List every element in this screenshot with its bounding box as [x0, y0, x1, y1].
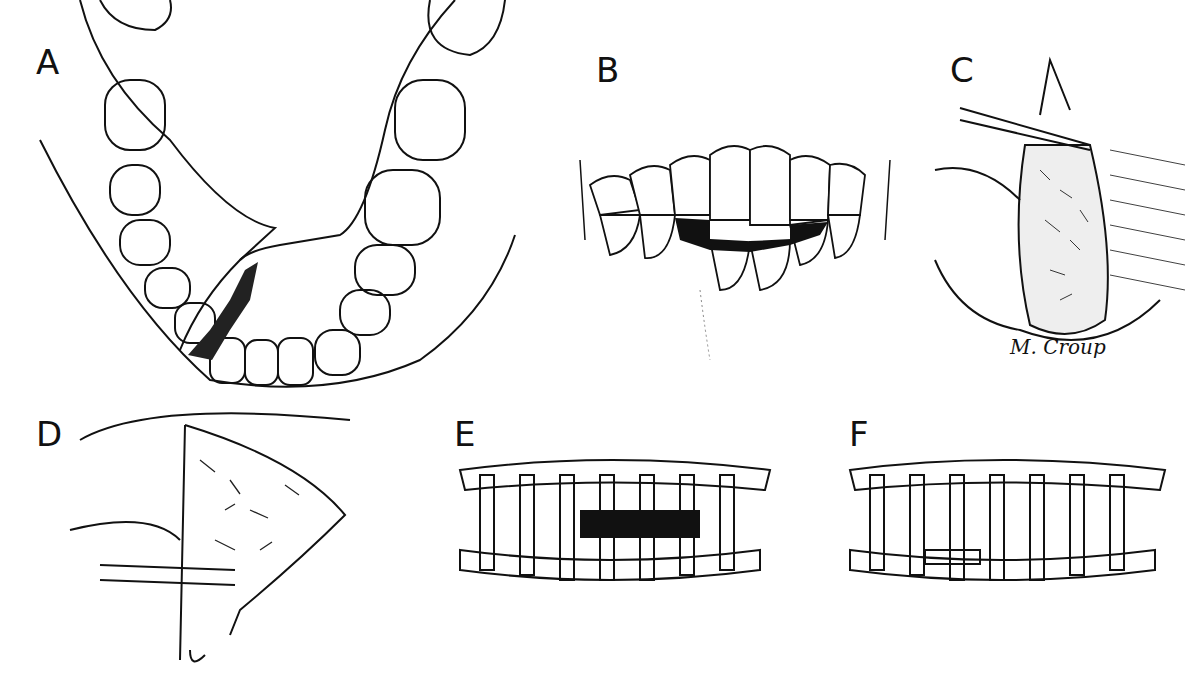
mandible-illustration — [0, 0, 540, 400]
panel-b: B — [560, 0, 900, 380]
bone-sagittal-illustration — [0, 400, 380, 675]
panel-f: F — [815, 400, 1193, 675]
arch-bar-gap-illustration — [420, 400, 800, 675]
artist-signature: M. Croup — [1010, 335, 1106, 359]
panel-e: E — [420, 400, 800, 675]
panel-a: A — [0, 0, 540, 400]
panel-c: C M. Croup — [920, 0, 1193, 400]
teeth-front-illustration — [560, 0, 900, 380]
panel-d: D — [0, 400, 380, 675]
arch-bar-reduced-illustration — [815, 400, 1193, 675]
